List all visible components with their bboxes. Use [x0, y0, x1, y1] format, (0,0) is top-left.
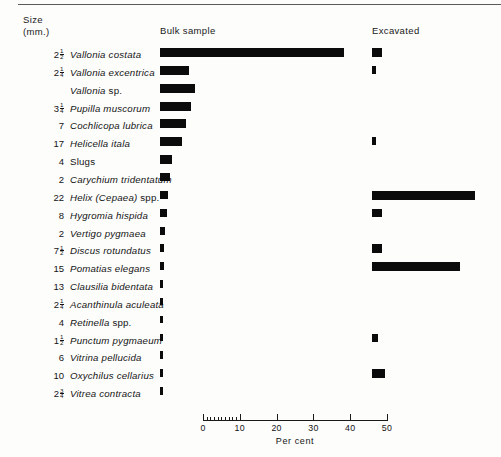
bulk-sample-bar [160, 48, 344, 57]
table-row: 6Vitrina pellucida [0, 349, 501, 367]
table-row: 4Slugs [0, 153, 501, 171]
bulk-sample-bar [160, 369, 163, 377]
species-label: Vallonia sp. [70, 85, 122, 96]
excavated-bar [372, 244, 382, 253]
table-row: 212Vallonia costata [0, 46, 501, 64]
table-row: 234Vitrea contracta [0, 385, 501, 403]
table-row: 10Oxychilus cellarius [0, 367, 501, 385]
size-column-header: Size (mm.) [23, 14, 50, 37]
axis-tick [277, 414, 278, 421]
table-row: 17Helicella itala [0, 135, 501, 153]
species-label: Pupilla muscorum [70, 103, 150, 114]
species-label: Acanthinula aculeata [70, 299, 164, 310]
size-value: 214 [18, 299, 64, 310]
table-row: 2Vertigo pygmaea [0, 225, 501, 243]
size-value: 4 [18, 156, 64, 167]
size-value: 2 [18, 228, 64, 239]
species-label: Oxychilus cellarius [70, 370, 154, 381]
bulk-sample-bar [160, 387, 163, 395]
top-divider-rule [18, 4, 501, 5]
species-label: Clausilia bidentata [70, 281, 153, 292]
axis-tick-label: 50 [382, 423, 392, 433]
table-row: 712Discus rotundatus [0, 242, 501, 260]
size-value: 6 [18, 352, 64, 363]
bulk-sample-bar [160, 262, 164, 270]
table-row: 4Retinella spp. [0, 314, 501, 332]
bulk-sample-bar [160, 191, 168, 199]
bulk-sample-bar [160, 316, 163, 324]
size-value: 13 [18, 281, 64, 292]
species-label: Vallonia excentrica [70, 67, 155, 78]
axis-minor-tick [225, 417, 226, 421]
size-value: 212 [18, 49, 64, 60]
bulk-sample-bar [160, 137, 182, 146]
table-row: 112Punctum pygmaeum [0, 332, 501, 350]
bulk-sample-column-header: Bulk sample [160, 25, 216, 36]
excavated-bar [372, 48, 382, 57]
snail-species-percentage-chart: Size (mm.) Bulk sample Excavated 212Vall… [0, 0, 501, 457]
axis-title: Per cent [276, 436, 314, 446]
size-header-line2: (mm.) [23, 26, 50, 38]
table-row: 15Pomatias elegans [0, 260, 501, 278]
species-label: Retinella spp. [70, 317, 132, 328]
axis-minor-tick [210, 417, 211, 421]
table-row: 2Carychium tridentatum [0, 171, 501, 189]
species-label: Helix (Cepaea) spp. [70, 192, 159, 203]
axis-minor-tick [221, 417, 222, 421]
species-label: Vitrea contracta [70, 388, 141, 399]
size-value: 712 [18, 245, 64, 256]
bulk-sample-bar [160, 155, 172, 164]
table-row: 314Pupilla muscorum [0, 100, 501, 118]
axis-minor-tick [218, 417, 219, 421]
percent-axis: 01020304050 Per cent [0, 404, 501, 457]
table-row: 214Vallonia excentrica [0, 64, 501, 82]
species-label: Helicella itala [70, 138, 130, 149]
species-label: Hygromia hispida [70, 210, 148, 221]
table-row: 13Clausilia bidentata [0, 278, 501, 296]
excavated-column-header: Excavated [372, 25, 420, 36]
excavated-bar [372, 66, 376, 74]
axis-line [203, 420, 387, 421]
axis-minor-tick [236, 417, 237, 421]
bulk-sample-bar [160, 66, 189, 75]
table-row: 8Hygromia hispida [0, 207, 501, 225]
bulk-sample-bar [160, 244, 164, 252]
species-label: Carychium tridentatum [70, 174, 172, 185]
table-row: 7Cochlicopa lubrica [0, 117, 501, 135]
size-value: 7 [18, 120, 64, 131]
bulk-sample-bar [160, 102, 191, 111]
axis-tick [313, 414, 314, 421]
axis-tick-label: 30 [308, 423, 318, 433]
axis-tick-label: 10 [235, 423, 245, 433]
excavated-bar [372, 191, 475, 200]
axis-tick-label: 20 [271, 423, 281, 433]
table-row: 22Helix (Cepaea) spp. [0, 189, 501, 207]
size-value: 22 [18, 192, 64, 203]
size-value: 234 [18, 388, 64, 399]
size-value: 4 [18, 317, 64, 328]
excavated-bar [372, 334, 378, 342]
axis-tick-label: 0 [200, 423, 205, 433]
size-value: 2 [18, 174, 64, 185]
axis-minor-tick [232, 417, 233, 421]
size-value: 112 [18, 335, 64, 346]
axis-minor-tick [214, 417, 215, 421]
size-header-line1: Size [23, 14, 50, 26]
excavated-bar [372, 262, 460, 271]
axis-tick [240, 414, 241, 421]
excavated-bar [372, 369, 385, 378]
table-row: Vallonia sp. [0, 82, 501, 100]
size-value: 15 [18, 263, 64, 274]
axis-tick [203, 414, 204, 421]
bulk-sample-bar [160, 298, 163, 306]
bulk-sample-bar [160, 334, 163, 342]
axis-tick [350, 414, 351, 421]
bulk-sample-bar [160, 84, 195, 93]
axis-minor-tick [229, 417, 230, 421]
bulk-sample-bar [160, 119, 186, 128]
size-value: 314 [18, 103, 64, 114]
table-row: 214Acanthinula aculeata [0, 296, 501, 314]
bulk-sample-bar [160, 209, 167, 217]
species-label: Punctum pygmaeum [70, 335, 162, 346]
species-label: Discus rotundatus [70, 245, 151, 256]
